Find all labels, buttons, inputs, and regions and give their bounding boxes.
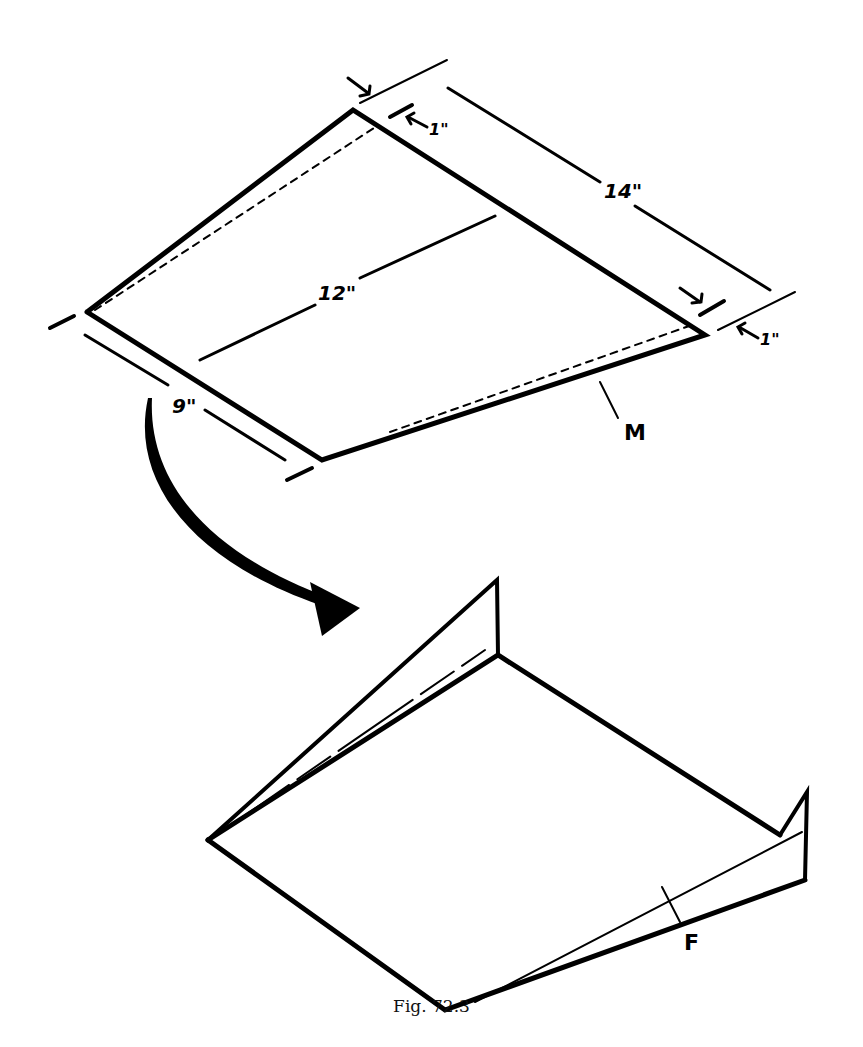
curved-arrow-icon (145, 398, 360, 636)
label-f: F (684, 930, 699, 955)
figure-caption: Fig. 72.3 (0, 996, 863, 1016)
label-m: M (624, 420, 646, 445)
folding-diagram: 14" 12" 9" 1" 1" M F (0, 0, 863, 1047)
flat-sheet (50, 60, 795, 480)
dimension-12in: 12" (318, 281, 356, 305)
folded-sheet (208, 580, 807, 1010)
dimension-9in: 9" (172, 394, 196, 418)
dimension-14in: 14" (604, 179, 642, 203)
dimension-1in-right: 1" (760, 330, 779, 349)
dimension-1in-top: 1" (429, 120, 448, 139)
